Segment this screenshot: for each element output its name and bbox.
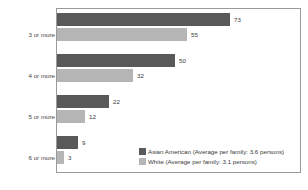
bar-white-6-or-more (57, 151, 64, 164)
bar-value-white-4-or-more: 32 (137, 73, 144, 79)
legend-label-asian-american: Asian American (Average per family: 3.6 … (148, 147, 284, 157)
bar-asian-6-or-more (57, 136, 78, 149)
category-label-3-or-more: 3 or more (5, 32, 55, 38)
bar-asian-4-or-more (57, 54, 175, 67)
bar-white-5-or-more (57, 110, 85, 123)
bar-asian-5-or-more (57, 95, 109, 108)
legend-label-white: White (Average per family: 3.1 persons) (148, 157, 257, 167)
bar-value-asian-5-or-more: 22 (113, 99, 120, 105)
category-label-4-or-more: 4 or more (5, 73, 55, 79)
category-label-6-or-more: 6 or more (5, 155, 55, 161)
legend-item-white: White (Average per family: 3.1 persons) (139, 157, 284, 167)
bar-asian-3-or-more (57, 13, 230, 26)
bar-value-white-5-or-more: 12 (89, 114, 96, 120)
bar-white-3-or-more (57, 28, 187, 41)
bar-white-4-or-more (57, 69, 133, 82)
bar-value-white-6-or-more: 3 (68, 155, 71, 161)
bar-value-asian-4-or-more: 50 (179, 58, 186, 64)
legend-swatch-icon-white (139, 158, 146, 165)
bar-value-asian-6-or-more: 9 (82, 140, 85, 146)
bar-value-white-3-or-more: 55 (191, 32, 198, 38)
chart-legend: Asian American (Average per family: 3.6 … (139, 147, 284, 166)
bar-value-asian-3-or-more: 73 (234, 17, 241, 23)
category-label-5-or-more: 5 or more (5, 114, 55, 120)
legend-item-asian-american: Asian American (Average per family: 3.6 … (139, 147, 284, 157)
legend-swatch-icon-asian-american (139, 148, 146, 155)
bar-chart: 3 or more 4 or more 5 or more 6 or more … (0, 0, 308, 190)
